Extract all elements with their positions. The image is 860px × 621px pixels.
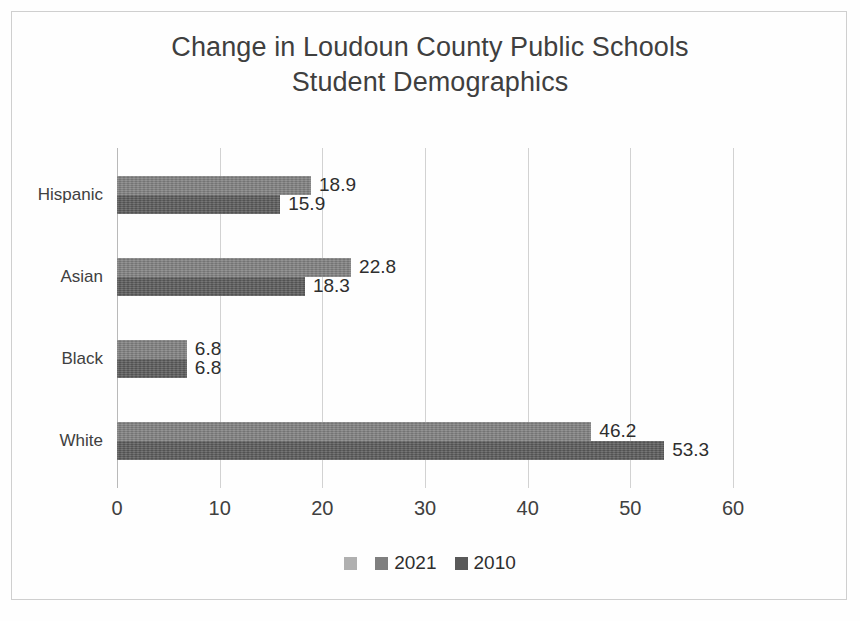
legend-swatch-unlabeled [344, 557, 357, 570]
x-tick-40: 40 [517, 497, 539, 520]
value-label-asian-2010: 18.3 [313, 276, 350, 296]
value-label-asian-2021: 22.8 [359, 257, 396, 277]
category-label-hispanic: Hispanic [38, 185, 103, 205]
category-label-asian: Asian [60, 267, 103, 287]
x-tick-30: 30 [414, 497, 436, 520]
x-tick-10: 10 [209, 497, 231, 520]
value-label-black-2021: 6.8 [195, 339, 221, 359]
bar-group-hispanic: Hispanic18.915.9 [117, 176, 733, 214]
legend-swatch-2021 [375, 557, 388, 570]
bar-black-2021[interactable] [117, 340, 187, 359]
x-axis-tick-labels: 0102030405060 [117, 497, 733, 527]
value-label-black-2010: 6.8 [195, 358, 221, 378]
bar-white-2021[interactable] [117, 422, 591, 441]
legend-item-2021[interactable]: 2021 [375, 552, 436, 574]
bar-asian-2010[interactable] [117, 277, 305, 296]
bar-group-asian: Asian22.818.3 [117, 258, 733, 296]
value-label-white-2010: 53.3 [672, 440, 709, 460]
gridline-60 [733, 148, 734, 488]
bar-hispanic-2021[interactable] [117, 176, 311, 195]
category-label-black: Black [61, 349, 103, 369]
bar-group-white: White46.253.3 [117, 422, 733, 460]
chart-page: Change in Loudoun County Public Schools … [0, 0, 860, 621]
x-tick-0: 0 [111, 497, 122, 520]
legend-label-2010: 2010 [474, 552, 516, 574]
legend-item-2010[interactable]: 2010 [455, 552, 516, 574]
chart-legend: 20212010 [0, 552, 860, 574]
bar-black-2010[interactable] [117, 359, 187, 378]
legend-swatch-2010 [455, 557, 468, 570]
x-tick-60: 60 [722, 497, 744, 520]
category-label-white: White [60, 431, 103, 451]
legend-label-2021: 2021 [394, 552, 436, 574]
bar-hispanic-2010[interactable] [117, 195, 280, 214]
x-tick-50: 50 [619, 497, 641, 520]
x-tick-20: 20 [311, 497, 333, 520]
chart-title: Change in Loudoun County Public Schools … [0, 30, 860, 100]
value-label-hispanic-2021: 18.9 [319, 175, 356, 195]
plot-area: Hispanic18.915.9Asian22.818.3Black6.86.8… [117, 148, 733, 488]
bar-group-black: Black6.86.8 [117, 340, 733, 378]
bar-white-2010[interactable] [117, 441, 664, 460]
value-label-white-2021: 46.2 [599, 421, 636, 441]
value-label-hispanic-2010: 15.9 [288, 194, 325, 214]
legend-item-unlabeled[interactable] [344, 557, 357, 570]
